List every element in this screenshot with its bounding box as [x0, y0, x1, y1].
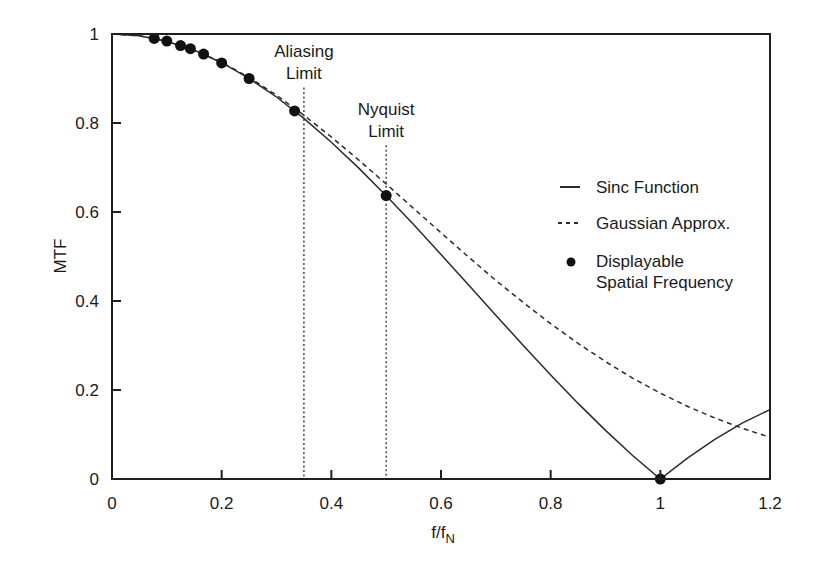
displayable-frequency-marker: [289, 105, 300, 116]
y-tick-label: 0.4: [75, 292, 99, 311]
x-tick-label: 0.2: [210, 494, 234, 513]
nyquist-limit-label: Limit: [368, 122, 404, 141]
x-tick-label: 0.8: [539, 494, 563, 513]
x-tick-label: 0.4: [320, 494, 344, 513]
displayable-frequency-marker: [161, 36, 172, 47]
x-axis-label-subscript: N: [445, 531, 454, 546]
displayable-frequency-marker: [381, 190, 392, 201]
legend-label: Spatial Frequency: [596, 273, 734, 292]
x-tick-label: 0.6: [429, 494, 453, 513]
displayable-frequency-marker: [216, 57, 227, 68]
gaussian-approx-line: [112, 34, 770, 437]
displayable-frequency-marker: [185, 43, 196, 54]
y-tick-label: 0.2: [75, 381, 99, 400]
mtf-chart: AliasingLimitNyquistLimit 00.20.40.60.81…: [0, 0, 819, 578]
displayable-frequency-marker: [198, 49, 209, 60]
x-axis-label-main: f/f: [431, 523, 445, 542]
legend: Sinc FunctionGaussian Approx.Displayable…: [558, 178, 734, 292]
y-tick-label: 1: [90, 25, 99, 44]
y-tick-label: 0: [90, 470, 99, 489]
aliasing-limit-label: Aliasing: [274, 42, 334, 61]
y-tick-label: 0.8: [75, 114, 99, 133]
legend-label: Displayable: [596, 252, 684, 271]
displayable-frequency-marker: [244, 73, 255, 84]
aliasing-limit-label: Limit: [286, 64, 322, 83]
x-tick-label: 0: [107, 494, 116, 513]
x-axis-label: f/fN: [431, 523, 455, 546]
x-tick-label: 1: [656, 494, 665, 513]
nyquist-limit-label: Nyquist: [358, 100, 415, 119]
legend-label: Gaussian Approx.: [596, 214, 730, 233]
legend-label: Sinc Function: [596, 178, 699, 197]
displayable-frequency-marker: [175, 40, 186, 51]
y-tick-label: 0.6: [75, 203, 99, 222]
y-axis-label: MTF: [51, 239, 70, 274]
legend-dot-icon: [567, 258, 576, 267]
x-tick-label: 1.2: [758, 494, 782, 513]
